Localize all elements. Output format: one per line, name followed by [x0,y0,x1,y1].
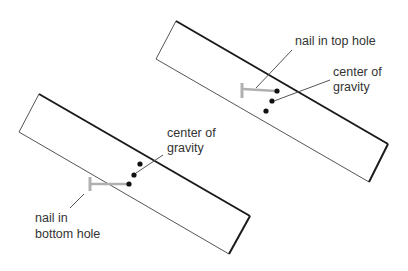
bottom-cog-label-line1: center of [167,126,216,140]
top-cog-label-line1: center of [333,65,382,79]
diagram-canvas: nail in top hole center of gravity cent [0,0,408,271]
bottom-nail-label-line1: nail in [35,211,68,225]
bottom-board: center of gravity nail in bottom hole [19,94,250,254]
bottom-cog-dot [131,172,136,177]
bottom-nail-label-line2: bottom hole [35,227,100,241]
bottom-board-right-edge [229,216,250,254]
top-bottom-hole-dot [263,108,268,113]
bottom-nail-icon [90,177,128,191]
top-board: nail in top hole center of gravity [156,21,388,182]
top-nail-label: nail in top hole [295,34,376,48]
bottom-board-left-edge [19,94,39,132]
bottom-cog-label-line2: gravity [167,141,205,155]
bottom-nail-leader [70,194,84,208]
top-cog-label-line2: gravity [333,80,371,94]
bottom-hole-dot [126,181,131,186]
bottom-board-top-edge [39,94,250,216]
top-board-left-edge [156,21,176,59]
top-nail-leader [256,50,292,88]
bottom-top-hole-dot [137,161,142,166]
top-cog-dot [269,98,274,103]
top-board-right-edge [369,144,388,182]
top-hole-dot [274,88,279,93]
